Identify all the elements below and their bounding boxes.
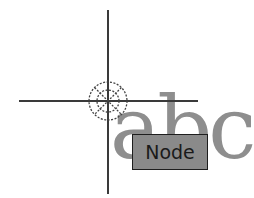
node-snap-icon	[86, 79, 130, 123]
snap-tooltip: Node	[132, 134, 208, 170]
drawing-canvas[interactable]: abc Node	[0, 0, 254, 198]
snap-tooltip-label: Node	[145, 141, 195, 163]
